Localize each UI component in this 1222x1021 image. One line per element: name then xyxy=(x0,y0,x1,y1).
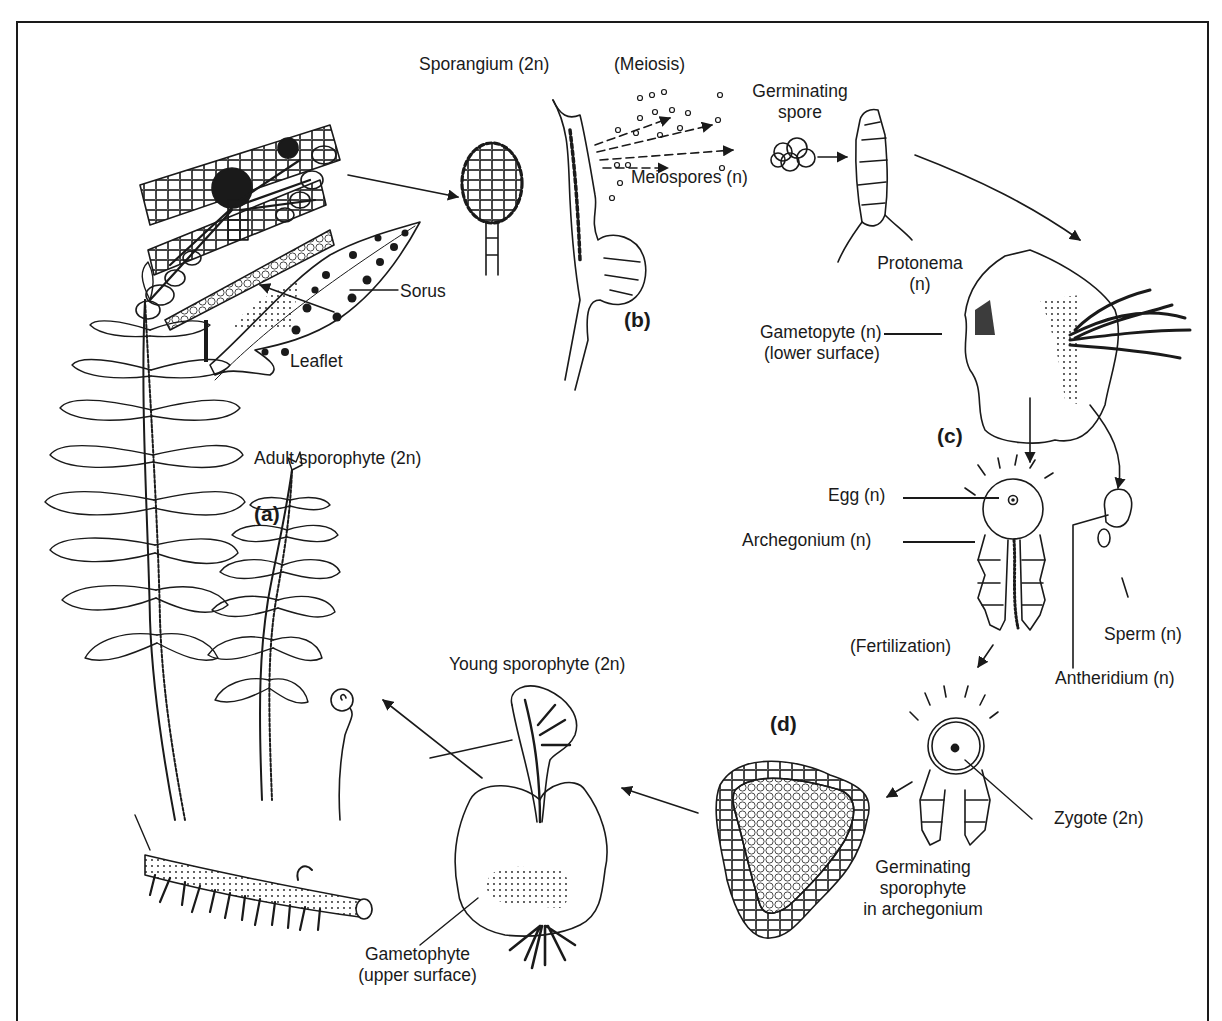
stage-d-label: (d) xyxy=(770,712,797,736)
label-protonema: Protonema (n) xyxy=(870,253,970,295)
label-gametophyte-upper-line1: Gametophyte xyxy=(345,944,490,965)
gametophyte-lower-leader-line xyxy=(884,333,942,335)
archegonium-with-zygote xyxy=(910,686,1032,845)
stage-a-label: (a) xyxy=(254,502,280,526)
young-sporophyte-leader xyxy=(430,740,512,758)
gametophyte-upper-leader xyxy=(420,898,478,945)
label-gametophyte-lower-line1: Gametopyte (n) xyxy=(760,322,882,343)
arrow-to-young-sporophyte xyxy=(622,788,698,813)
label-germinating-spore: Germinating spore xyxy=(745,81,855,123)
label-germinating-sporophyte-line2: sporophyte xyxy=(858,878,988,899)
label-fertilization: (Fertilization) xyxy=(850,636,951,657)
label-gametophyte-upper: Gametophyte (upper surface) xyxy=(345,944,490,986)
label-young-sporophyte: Young sporophyte (2n) xyxy=(449,654,625,675)
label-germinating-spore-line2: spore xyxy=(745,102,855,123)
label-germinating-spore-line1: Germinating xyxy=(745,81,855,102)
gametophyte-lower-surface xyxy=(965,250,1190,443)
arrow-protonema-to-gametophyte xyxy=(915,155,1080,240)
archegonium-with-egg xyxy=(965,455,1053,630)
label-meiosis: (Meiosis) xyxy=(614,54,685,75)
archegonium-leader-line xyxy=(903,541,975,543)
label-protonema-line2: (n) xyxy=(870,274,970,295)
label-leaflet: Leaflet xyxy=(290,351,343,372)
label-antheridium: Antheridium (n) xyxy=(1055,668,1175,689)
arrow-sorus-to-sporangium xyxy=(348,175,458,197)
label-meiospores: Meiospores (n) xyxy=(631,167,748,188)
young-sporophyte-on-gametophyte xyxy=(455,686,607,968)
label-gametophyte-lower: Gametopyte (n) (lower surface) xyxy=(760,322,882,364)
label-egg: Egg (n) xyxy=(828,485,885,506)
label-archegonium: Archegonium (n) xyxy=(742,530,871,551)
stage-b-label: (b) xyxy=(624,308,651,332)
stage-c-label: (c) xyxy=(937,424,963,448)
germinating-spore-drawing xyxy=(771,138,815,171)
label-zygote: Zygote (2n) xyxy=(1054,808,1143,829)
egg-leader-line xyxy=(903,497,999,499)
arrow-zygote-to-sporophyte xyxy=(887,782,912,797)
sporangium-drawing xyxy=(462,143,522,275)
label-sporangium: Sporangium (2n) xyxy=(419,54,549,75)
label-sorus: Sorus xyxy=(400,281,446,302)
label-germinating-sporophyte-line3: in archegonium xyxy=(858,899,988,920)
protonema-drawing xyxy=(838,109,912,262)
label-gametophyte-lower-line2: (lower surface) xyxy=(760,343,882,364)
label-protonema-line1: Protonema xyxy=(870,253,970,274)
germinating-sporophyte xyxy=(716,761,869,938)
label-adult-sporophyte: Adult sporophyte (2n) xyxy=(254,448,421,469)
label-germinating-sporophyte: Germinating sporophyte in archegonium xyxy=(858,857,988,920)
label-sperm: Sperm (n) xyxy=(1104,624,1182,645)
label-gametophyte-upper-line2: (upper surface) xyxy=(345,965,490,986)
arrow-to-adult-sporophyte xyxy=(383,700,482,778)
arrow-fertilization xyxy=(978,645,993,667)
label-germinating-sporophyte-line1: Germinating xyxy=(858,857,988,878)
